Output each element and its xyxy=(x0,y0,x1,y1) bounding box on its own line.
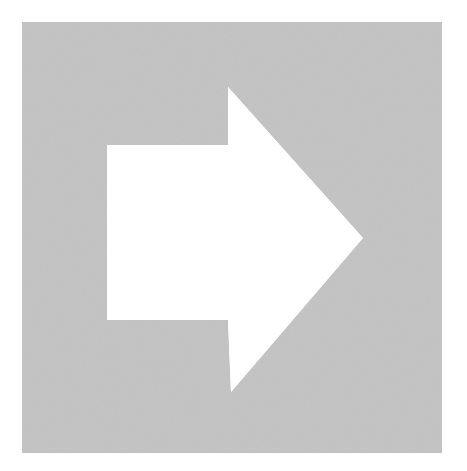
image-canvas xyxy=(0,0,467,471)
arrow-figure xyxy=(0,0,467,471)
